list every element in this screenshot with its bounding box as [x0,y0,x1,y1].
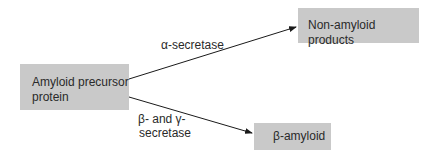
non-amyloid-products-node: Non-amyloid products [298,8,419,43]
alpha-secretase-label: α-secretase [161,38,224,52]
amyloid-precursor-protein-node: Amyloid precursor protein [20,64,129,110]
beta-gamma-label-line1: β- and γ- [138,112,191,126]
beta-gamma-secretase-label: β- and γ- secretase [138,112,191,140]
app-node-label-line2: protein [32,90,129,105]
alpha-secretase-text: α-secretase [161,38,224,52]
beta-gamma-label-line2: secretase [138,126,191,140]
beta-amyloid-node: β-amyloid [254,123,331,150]
non-amyloid-node-label: Non-amyloid products [308,18,375,47]
app-node-label-line1: Amyloid precursor [32,75,129,90]
alpha-secretase-arrow [129,27,296,79]
beta-amyloid-node-label: β-amyloid [273,129,325,143]
